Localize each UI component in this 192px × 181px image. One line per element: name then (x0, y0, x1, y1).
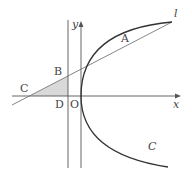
point-d-label: D (55, 98, 64, 111)
origin-label: O (70, 98, 79, 111)
point-a-label: A (120, 32, 130, 45)
y-axis-label: y (71, 18, 79, 31)
y-axis-arrow-icon (79, 21, 84, 27)
point-c-label: C (20, 82, 28, 95)
point-b-label: B (54, 65, 62, 78)
curve-c-label: C (148, 140, 157, 153)
parabola-tangent-diagram: y x l A B C D O C (0, 0, 192, 181)
x-axis-label: x (173, 98, 180, 111)
tangent-line-l (12, 22, 172, 105)
tangent-line-label: l (174, 7, 178, 20)
